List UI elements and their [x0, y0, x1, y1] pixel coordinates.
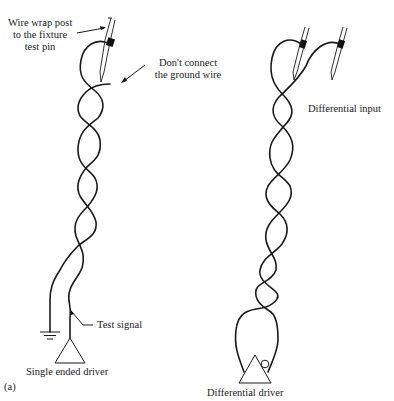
ground-symbol — [40, 332, 60, 339]
ground-wire-note-line1: Don't connect — [146, 57, 230, 69]
differential-driver-symbol — [239, 355, 271, 383]
ground-wire-leader — [121, 65, 145, 83]
test-signal-label: Test signal — [97, 319, 142, 331]
panel-a-drawing — [40, 18, 145, 363]
differential-driver-label: Differential driver — [207, 387, 283, 399]
wire-wrap-label-line2: to the fixture — [8, 29, 72, 41]
differential-wire-1 — [256, 40, 301, 372]
wire-wrap-leader — [77, 26, 106, 33]
wire-wrap-label-line1: Wire wrap post — [8, 17, 72, 29]
ground-wire-a — [50, 84, 110, 332]
wire-wrap-label: Wire wrap post to the fixture test pin — [8, 17, 72, 53]
panel-b-drawing — [235, 27, 347, 383]
differential-pin-1 — [293, 27, 309, 80]
single-ended-driver-symbol — [55, 338, 85, 363]
single-ended-driver-label: Single ended driver — [26, 366, 108, 378]
differential-input-label: Differential input — [308, 103, 381, 115]
signal-wire-a — [69, 41, 108, 338]
figure: Wire wrap post to the fixture test pin D… — [0, 0, 394, 401]
test-signal-leader — [71, 310, 94, 326]
differential-pin-2 — [331, 27, 347, 80]
ground-wire-note: Don't connect the ground wire — [146, 57, 230, 81]
panel-a-tag: (a) — [4, 381, 16, 393]
wire-wrap-label-line3: test pin — [8, 41, 72, 53]
inverting-bubble — [261, 360, 269, 368]
differential-wire-2 — [235, 42, 340, 372]
ground-wire-note-line2: the ground wire — [146, 69, 230, 81]
